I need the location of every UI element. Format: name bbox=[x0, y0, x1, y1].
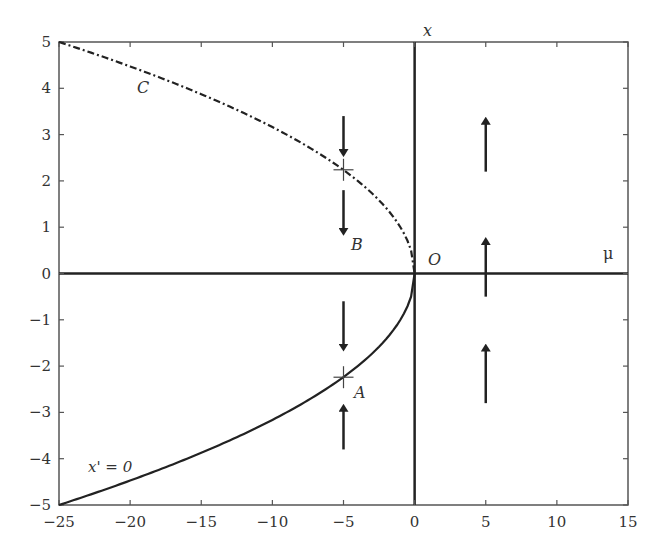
x-tick-label: −10 bbox=[257, 513, 289, 531]
y-tick-label: 4 bbox=[41, 79, 51, 97]
x-axis-var-label: μ bbox=[603, 244, 613, 263]
y-tick-label: −2 bbox=[29, 357, 51, 375]
label-c: C bbox=[137, 78, 149, 97]
axis-ticks: −25−20−15−10−5051015−5−4−3−2−1012345 bbox=[29, 33, 638, 531]
y-tick-label: 1 bbox=[41, 218, 51, 236]
annotations: C B A O x' = 0 x μ bbox=[88, 21, 613, 476]
label-a: A bbox=[352, 383, 366, 402]
x-tick-label: 0 bbox=[410, 513, 420, 531]
x-tick-label: −20 bbox=[114, 513, 146, 531]
x-tick-label: −5 bbox=[332, 513, 354, 531]
x-tick-label: 10 bbox=[547, 513, 566, 531]
y-tick-label: −4 bbox=[29, 450, 51, 468]
bifurcation-chart: −25−20−15−10−5051015−5−4−3−2−1012345 C B… bbox=[0, 0, 670, 555]
x-tick-label: −15 bbox=[185, 513, 217, 531]
label-nullcline: x' = 0 bbox=[88, 458, 133, 476]
y-tick-label: −5 bbox=[29, 496, 51, 514]
x-tick-label: 15 bbox=[618, 513, 637, 531]
x-tick-label: −25 bbox=[43, 513, 75, 531]
label-origin: O bbox=[428, 250, 441, 269]
y-tick-label: 0 bbox=[41, 265, 51, 283]
y-tick-label: 2 bbox=[41, 172, 51, 190]
y-axis-var-label: x bbox=[423, 21, 432, 40]
y-tick-label: 5 bbox=[41, 33, 51, 51]
y-tick-label: −3 bbox=[29, 403, 51, 421]
label-b: B bbox=[350, 235, 363, 254]
x-tick-label: 5 bbox=[481, 513, 491, 531]
y-tick-label: −1 bbox=[29, 311, 51, 329]
y-tick-label: 3 bbox=[41, 126, 51, 144]
